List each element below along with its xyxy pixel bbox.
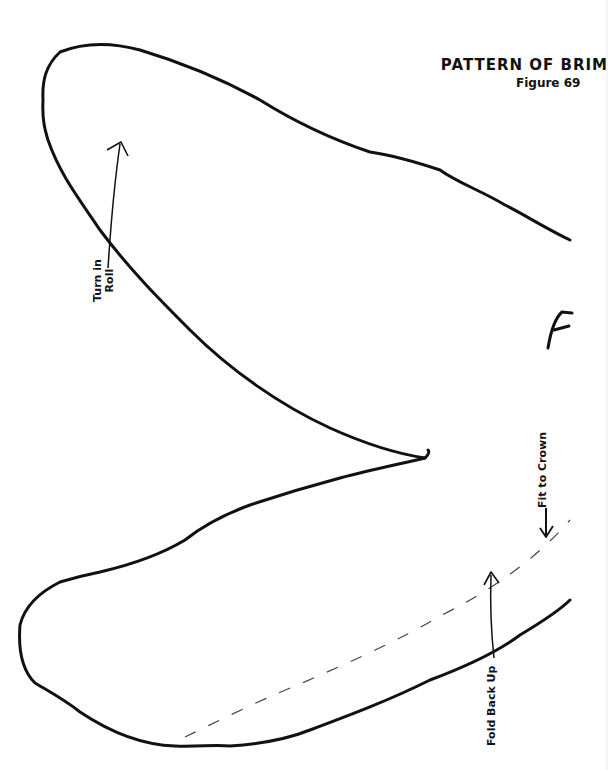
turn-in-roll-arrowhead-icon (107, 142, 128, 156)
figure-title: PATTERN OF BRIM (441, 56, 608, 74)
fold-back-up-label: Fold Back Up (486, 666, 498, 746)
pencil-f-mark (548, 312, 572, 348)
turn-in-roll-label-line2: Roll (104, 259, 116, 302)
brim-upper-outline (43, 44, 570, 458)
figure-subtitle: Figure 69 (516, 76, 580, 90)
brim-pattern-drawing (0, 0, 608, 770)
fold-back-up-arrow-shaft (491, 575, 494, 658)
fit-to-crown-label: Fit to Crown (537, 432, 549, 508)
turn-in-roll-label: Turn in Roll (92, 259, 116, 302)
